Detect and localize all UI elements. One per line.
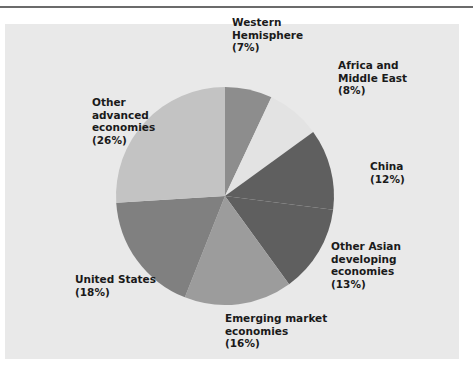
label-united-states: United States (18%) (75, 273, 156, 298)
label-other-asian: Other Asian developing economies (13%) (331, 240, 401, 290)
label-western-hemisphere: Western Hemisphere (7%) (232, 16, 303, 54)
label-china: China (12%) (370, 160, 405, 185)
label-africa-middle-east: Africa and Middle East (8%) (338, 59, 407, 97)
label-other-advanced: Other advanced economies (26%) (92, 96, 155, 146)
label-emerging-market: Emerging market economies (16%) (225, 312, 327, 350)
